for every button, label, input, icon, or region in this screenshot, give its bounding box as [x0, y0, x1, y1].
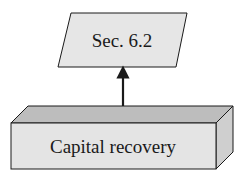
- section-node: Sec. 6.2: [58, 13, 187, 67]
- capital-recovery-label: Capital recovery: [50, 136, 177, 157]
- box-top-face: [11, 106, 233, 123]
- capital-recovery-node: Capital recovery: [11, 106, 233, 169]
- section-label: Sec. 6.2: [92, 30, 153, 51]
- diagram-canvas: Sec. 6.2 Capital recovery: [0, 0, 247, 174]
